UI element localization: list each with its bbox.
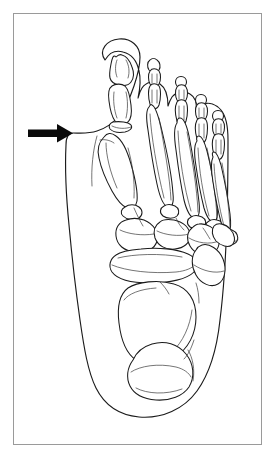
navicular-bone (110, 248, 197, 283)
figure-root (0, 0, 276, 458)
foot-skeleton-illustration (0, 0, 276, 458)
